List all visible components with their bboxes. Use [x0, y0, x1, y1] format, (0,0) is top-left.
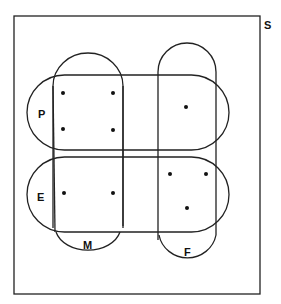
label-s: S [264, 19, 271, 31]
universe-set-s [14, 16, 260, 294]
points-p-f [184, 105, 188, 109]
label-e: E [37, 191, 44, 203]
set-e [27, 157, 229, 232]
points-p-m [61, 91, 115, 132]
set-f [158, 43, 216, 240]
venn-diagram: S P E M F [0, 0, 281, 304]
set-m [53, 53, 123, 228]
label-f: F [184, 246, 191, 258]
label-p: P [38, 108, 45, 120]
points-e-f [168, 172, 208, 210]
points-e-m [62, 191, 115, 195]
set-p [27, 75, 229, 150]
label-m: M [83, 239, 92, 251]
